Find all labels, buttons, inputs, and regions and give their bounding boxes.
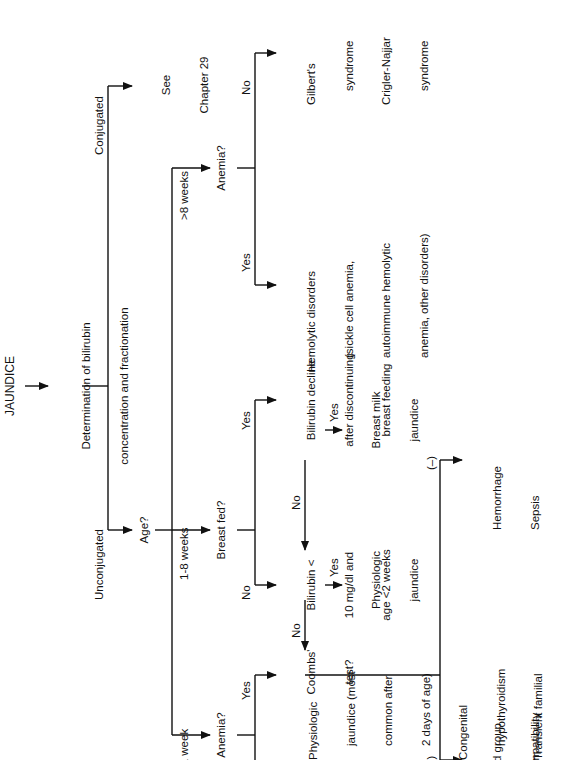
label-1-8-weeks: 1-8 weeks <box>178 528 191 580</box>
cause-line: Sepsis <box>529 402 542 531</box>
root-jaundice: JAUNDICE <box>4 346 17 426</box>
result-line: Crigler-Najjar <box>380 37 393 105</box>
cause-line: Transient familial <box>532 639 545 760</box>
gilbert-node: Gilbert's syndrome Crigler-Najjar syndro… <box>280 37 455 105</box>
determination-node: Determination of bilirubin concentration… <box>55 296 155 476</box>
cause-line: common after <box>382 639 395 760</box>
breast-fed-question: Breast fed? <box>215 490 228 570</box>
cause-line: jaundice (most <box>345 639 358 760</box>
gt8-no-label: No <box>240 80 253 95</box>
decline-yes-label: Yes <box>328 403 341 422</box>
age-question: Age? <box>138 505 151 555</box>
breastfed-yes-label: Yes <box>240 411 253 430</box>
bili-line: Bilirubin < <box>305 540 318 630</box>
result-line: Breast milk <box>370 375 383 465</box>
lt1-yes-label: Yes <box>240 681 253 700</box>
bili-no-label: No <box>290 623 303 638</box>
breastfed-no-label: No <box>240 585 253 600</box>
label-lt-1-week: <1 week <box>178 729 191 760</box>
cause-line: Hemorrhage <box>491 402 504 531</box>
result-line: anemia, other disorders) <box>418 233 431 372</box>
result-line: Gilbert's <box>305 37 318 105</box>
gt8-yes-label: Yes <box>240 253 253 272</box>
see-chapter-node: See Chapter 29 <box>135 40 235 130</box>
chapter-line: Chapter 29 <box>198 40 211 130</box>
lt1-anemia-question: Anemia? <box>215 700 228 760</box>
gt8-anemia-question: Anemia? <box>215 133 228 203</box>
decline-no-label: No <box>290 495 303 510</box>
coombs-neg-label: (–) <box>425 456 438 470</box>
result-line: Physiologic <box>370 535 383 625</box>
cause-line: Congenital <box>457 639 470 760</box>
result-line: jaundice <box>408 375 421 465</box>
result-line: syndrome <box>418 37 431 105</box>
coombs-negative-causes: Hemorrhage Sepsis Congenital spherocytos… <box>466 402 565 531</box>
cause-line: Physiologic <box>307 639 320 760</box>
cause-line: 2 days of age) <box>420 639 433 760</box>
lt1-no-anemia-causes: Physiologic jaundice (most common after … <box>282 639 565 760</box>
breast-milk-jaundice-node: Breast milk jaundice <box>345 375 445 465</box>
see-line: See <box>160 40 173 130</box>
result-line: syndrome <box>343 37 356 105</box>
determination-line-2: concentration and fractionation <box>118 296 131 476</box>
label-unconjugated: Unconjugated <box>93 529 106 600</box>
decline-line: Bilirubin decline <box>305 340 318 460</box>
label-conjugated: Conjugated <box>93 96 106 155</box>
label-gt-8-weeks: >8 weeks <box>178 171 191 220</box>
cause-line: hypothyroidism <box>495 639 508 760</box>
physiologic-jaundice-node: Physiologic jaundice <box>345 535 445 625</box>
determination-line-1: Determination of bilirubin <box>80 296 93 476</box>
result-line: jaundice <box>408 535 421 625</box>
bili-yes-label: Yes <box>328 558 341 577</box>
